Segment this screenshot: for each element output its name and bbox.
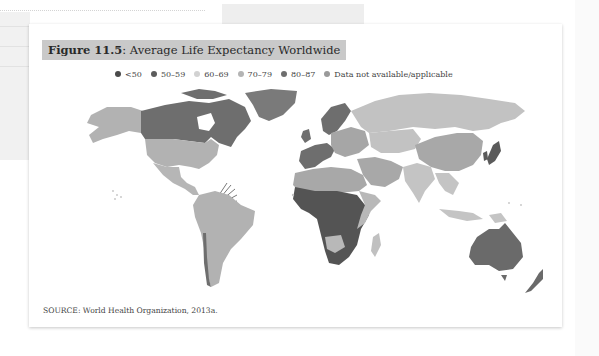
legend-item-70-79: 70–79 — [238, 70, 272, 79]
region-south-america — [193, 191, 255, 287]
legend-item-80-87: 80–87 — [281, 70, 315, 79]
region-arctic-islands — [181, 89, 227, 99]
region-india — [403, 163, 435, 203]
region-china — [415, 133, 483, 171]
legend-label: 70–79 — [248, 70, 272, 79]
region-greenland — [245, 89, 297, 121]
background-page-block — [222, 4, 364, 26]
region-indonesia — [439, 209, 483, 221]
legend-dot — [281, 71, 287, 77]
legend-item-50-59: 50–59 — [151, 70, 185, 79]
region-central-asia — [369, 129, 421, 153]
legend-dot — [238, 71, 244, 77]
region-alaska — [87, 107, 143, 143]
region-madagascar — [371, 233, 381, 257]
background-sheet — [0, 12, 30, 160]
region-mexico — [153, 163, 199, 195]
legend-label: <50 — [125, 70, 142, 79]
background-page-edge — [0, 10, 205, 14]
figure-card: Figure 11.5: Average Life Expectancy Wor… — [29, 24, 562, 327]
figure-label: Figure 11.5 — [48, 43, 122, 57]
region-eastern-europe — [331, 127, 369, 157]
figure-title-text: Average Life Expectancy Worldwide — [130, 43, 341, 57]
region-japan — [487, 141, 501, 165]
legend-dot — [151, 71, 157, 77]
region-sub-saharan-africa — [293, 187, 369, 265]
region-western-europe — [299, 143, 335, 169]
legend-label: 60–69 — [204, 70, 228, 79]
world-map — [69, 87, 549, 302]
legend-dot — [324, 71, 330, 77]
legend-item-lt50: <50 — [115, 70, 142, 79]
region-uk — [301, 129, 311, 143]
legend: <50 50–59 60–69 70–79 80–87 Data not ava… — [115, 67, 453, 81]
region-png — [489, 213, 507, 223]
legend-item-60-69: 60–69 — [194, 70, 228, 79]
figure-title: Figure 11.5: Average Life Expectancy Wor… — [42, 40, 346, 60]
legend-label: 80–87 — [291, 70, 315, 79]
region-australia — [469, 223, 523, 271]
region-new-zealand — [525, 269, 543, 293]
legend-label: Data not available/applicable — [334, 70, 452, 79]
region-russia — [351, 93, 525, 133]
source-note: SOURCE: World Health Organization, 2013a… — [43, 306, 218, 315]
legend-dot — [194, 71, 200, 77]
region-southeast-asia — [435, 173, 459, 195]
legend-item-na: Data not available/applicable — [324, 70, 452, 79]
background-right-edge — [575, 0, 599, 356]
region-tasmania — [501, 275, 507, 281]
legend-dot — [115, 71, 121, 77]
legend-label: 50–59 — [161, 70, 185, 79]
